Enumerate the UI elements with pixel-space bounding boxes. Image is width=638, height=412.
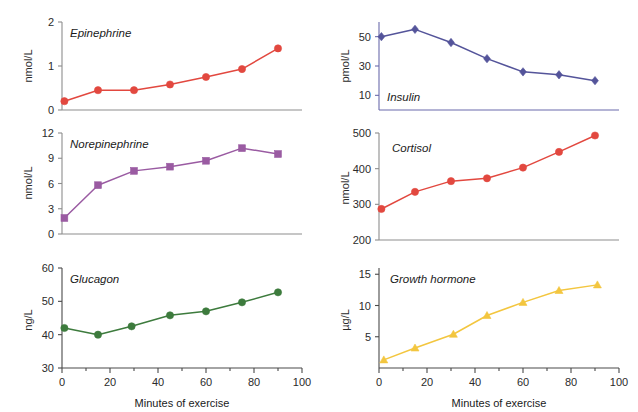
data-point-cortisol-0: [378, 205, 385, 212]
data-point-cortisol-5: [555, 148, 562, 155]
y-tick-label-glucagon-0: 30: [42, 362, 54, 374]
data-point-epinephrine-6: [274, 45, 281, 52]
y-axis-title-cortisol: nmol/L: [339, 171, 351, 204]
y-tick-label-epinephrine-0: 0: [48, 104, 54, 116]
y-tick-label-norepinephrine-3: 9: [48, 152, 54, 164]
data-point-norepinephrine-4: [203, 157, 210, 164]
y-axis-title-epinephrine: nmol/L: [22, 49, 34, 82]
chart-panel-norepinephrine: 036912Norepinephrinenmol/L: [22, 127, 302, 240]
data-point-glucagon-2: [128, 323, 135, 330]
data-point-norepinephrine-0: [61, 215, 68, 222]
data-point-marker: [274, 289, 281, 296]
data-point-norepinephrine-6: [275, 151, 282, 158]
chart-panel-insulin: 103050Insulinpmol/L: [339, 22, 619, 110]
data-point-glucagon-0: [61, 324, 68, 331]
data-point-marker: [94, 87, 101, 94]
y-tick-label-epinephrine-1: 1: [48, 60, 54, 72]
data-point-marker: [274, 45, 281, 52]
x-tick-label-growth-hormone-4: 80: [565, 376, 577, 388]
series-line-insulin: [381, 29, 595, 80]
chart-panel-cortisol: 200300400500Cortisolnmol/L: [339, 127, 619, 246]
data-point-epinephrine-4: [202, 73, 209, 80]
x-tick-label-growth-hormone-0: 0: [376, 376, 382, 388]
x-tick-label-growth-hormone-5: 100: [610, 376, 628, 388]
panel-title-cortisol: Cortisol: [392, 142, 431, 154]
data-point-marker: [94, 331, 101, 338]
data-point-marker: [238, 299, 245, 306]
data-point-marker: [167, 163, 174, 170]
y-tick-label-cortisol-2: 400: [353, 163, 371, 175]
data-point-marker: [130, 87, 137, 94]
x-tick-label-glucagon-2: 40: [152, 376, 164, 388]
chart-panel-growth-hormone: 51015020406080100Growth hormoneµg/L: [339, 268, 628, 388]
data-point-marker: [484, 54, 491, 62]
y-tick-label-cortisol-0: 200: [353, 234, 371, 246]
panel-title-norepinephrine: Norepinephrine: [70, 138, 149, 150]
x-tick-label-glucagon-0: 0: [59, 376, 65, 388]
data-point-glucagon-5: [238, 299, 245, 306]
x-tick-label-glucagon-3: 60: [200, 376, 212, 388]
data-point-insulin-3: [484, 54, 491, 62]
data-point-marker: [411, 188, 418, 195]
y-tick-label-norepinephrine-4: 12: [42, 127, 54, 139]
y-axis-title-growth-hormone: µg/L: [339, 309, 351, 331]
chart-panel-glucagon: 30405060020406080100Glucagonng/L: [22, 262, 311, 388]
panel-title-glucagon: Glucagon: [70, 273, 119, 285]
data-point-norepinephrine-1: [95, 182, 102, 189]
data-point-marker: [128, 323, 135, 330]
data-point-epinephrine-1: [94, 87, 101, 94]
x-tick-label-growth-hormone-1: 20: [421, 376, 433, 388]
data-point-marker: [449, 330, 457, 337]
panel-title-insulin: Insulin: [387, 91, 420, 103]
data-point-cortisol-4: [519, 164, 526, 171]
y-tick-label-glucagon-3: 60: [42, 262, 54, 274]
data-point-glucagon-4: [202, 308, 209, 315]
data-point-marker: [203, 157, 210, 164]
data-point-marker: [448, 38, 455, 46]
x-axis-caption-right: Minutes of exercise: [452, 397, 547, 409]
y-tick-label-cortisol-1: 300: [353, 198, 371, 210]
data-point-insulin-4: [520, 68, 527, 76]
y-axis-title-insulin: pmol/L: [339, 49, 351, 82]
data-point-glucagon-3: [166, 312, 173, 319]
data-point-cortisol-2: [447, 178, 454, 185]
data-point-marker: [166, 81, 173, 88]
data-point-norepinephrine-3: [167, 163, 174, 170]
y-tick-label-norepinephrine-0: 0: [48, 228, 54, 240]
data-point-marker: [593, 281, 601, 288]
x-tick-label-glucagon-5: 100: [293, 376, 311, 388]
y-tick-label-norepinephrine-1: 3: [48, 203, 54, 215]
data-point-marker: [202, 308, 209, 315]
data-point-glucagon-6: [274, 289, 281, 296]
data-point-insulin-1: [412, 25, 419, 33]
data-point-marker: [591, 132, 598, 139]
x-tick-label-glucagon-4: 80: [248, 376, 260, 388]
x-tick-label-growth-hormone-2: 40: [469, 376, 481, 388]
y-tick-label-insulin-1: 30: [359, 60, 371, 72]
data-point-epinephrine-3: [166, 81, 173, 88]
data-point-marker: [131, 167, 138, 174]
y-tick-label-cortisol-3: 500: [353, 127, 371, 139]
y-tick-label-growth-hormone-1: 10: [359, 300, 371, 312]
data-point-marker: [95, 182, 102, 189]
data-point-marker: [61, 98, 68, 105]
data-point-marker: [555, 148, 562, 155]
y-tick-label-growth-hormone-0: 5: [365, 331, 371, 343]
data-point-marker: [592, 76, 599, 84]
y-tick-label-growth-hormone-2: 15: [359, 268, 371, 280]
y-axis-title-norepinephrine: nmol/L: [22, 166, 34, 199]
x-axis-caption-left: Minutes of exercise: [135, 397, 230, 409]
data-point-marker: [275, 151, 282, 158]
hormone-response-figure: 012Epinephrinenmol/L103050Insulinpmol/L0…: [0, 0, 638, 412]
data-point-epinephrine-2: [130, 87, 137, 94]
y-tick-label-norepinephrine-2: 6: [48, 178, 54, 190]
data-point-marker: [239, 145, 246, 152]
y-tick-label-epinephrine-2: 2: [48, 16, 54, 28]
data-point-marker: [202, 73, 209, 80]
figure-canvas: 012Epinephrinenmol/L103050Insulinpmol/L0…: [0, 0, 638, 412]
data-point-epinephrine-0: [61, 98, 68, 105]
y-tick-label-glucagon-2: 50: [42, 295, 54, 307]
data-point-marker: [378, 205, 385, 212]
data-point-epinephrine-5: [238, 65, 245, 72]
data-point-marker: [483, 175, 490, 182]
